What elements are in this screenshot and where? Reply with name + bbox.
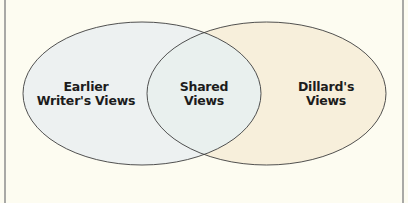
- right-set-label-line-2: Views: [286, 94, 366, 108]
- intersection-label-line-2: Views: [168, 94, 240, 108]
- diagram-frame: Earlier Writer's Views Shared Views Dill…: [0, 0, 408, 203]
- left-set-label-line-2: Writer's Views: [30, 94, 142, 108]
- intersection-label-line-1: Shared: [168, 80, 240, 94]
- right-set-label-line-1: Dillard's: [286, 80, 366, 94]
- left-set-label-line-1: Earlier: [30, 80, 142, 94]
- left-set-label: Earlier Writer's Views: [30, 80, 142, 108]
- intersection-label: Shared Views: [168, 80, 240, 108]
- right-set-label: Dillard's Views: [286, 80, 366, 108]
